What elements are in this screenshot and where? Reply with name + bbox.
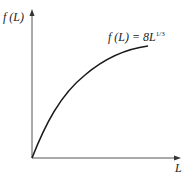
x-axis-arrow-icon (174, 156, 181, 161)
x-axis-label: L (174, 161, 182, 175)
equation-label: f (L) = 8L1/3 (108, 30, 165, 44)
y-axis-label: f (L) (3, 10, 24, 24)
chart: f (L) L f (L) = 8L1/3 (0, 0, 186, 175)
chart-canvas: f (L) L f (L) = 8L1/3 (0, 0, 186, 175)
function-curve (32, 46, 148, 158)
y-axis-arrow-icon (30, 9, 35, 16)
